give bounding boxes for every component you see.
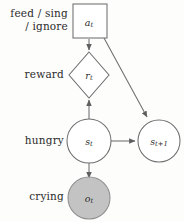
node-observation-label-sub: t <box>91 197 94 205</box>
graph-canvas: at rt st st+1 ot <box>0 0 184 222</box>
node-state-t-plus-1-label-sub: t+1 <box>155 140 168 148</box>
edge-action-to-state-next <box>104 38 147 117</box>
graphical-model-diagram: feed / sing / ignore reward hungry cryin… <box>0 0 184 222</box>
node-state-t-label-sub: t <box>90 140 93 148</box>
node-action-label-sub: t <box>90 21 93 29</box>
node-reward-label-sub: t <box>90 74 93 82</box>
